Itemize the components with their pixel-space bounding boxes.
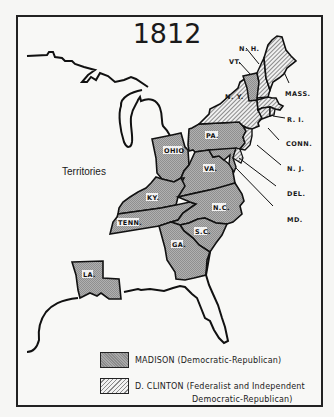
label-pa: PA. [206,132,219,140]
legend-madison-text: MADISON (Democratic-Republican) [135,356,281,365]
label-ga: GA. [172,241,186,249]
territories-label: Territories [62,166,106,177]
legend-item-clinton: D. CLINTON (Federalist and Independent D… [100,378,305,406]
label-nj: N. J. [287,165,305,173]
label-md: MD. [287,216,303,224]
label-ky: KY. [147,194,159,202]
clinton-swatch [100,378,129,394]
label-tenn: TENN. [118,219,142,227]
state-la [72,261,121,299]
label-sc: S.C. [195,228,211,236]
legend-item-madison: MADISON (Democratic-Republican) [100,352,281,368]
label-nc: N.C. [213,204,230,212]
label-va: VA. [204,165,217,173]
label-la: LA. [83,271,96,279]
label-mass: MASS. [285,90,311,98]
gulf-coast-outline [27,298,78,352]
label-ny: N. Y. [225,93,244,101]
legend-clinton-text: D. CLINTON (Federalist and Independent [135,382,305,391]
label-conn: CONN. [286,140,312,148]
label-ri: R. I. [287,116,304,124]
label-ohio: OHIO [164,147,185,155]
great-lakes-border [27,52,148,87]
state-ri [270,107,275,116]
legend-label-clinton: D. CLINTON (Federalist and Independent D… [135,380,305,406]
legend-label-madison: MADISON (Democratic-Republican) [135,354,281,367]
legend-clinton-text-line2: Democratic-Republican) [135,393,305,406]
label-vt: VT. [229,58,241,66]
label-nh: N. H. [239,45,260,53]
madison-swatch [100,352,129,368]
label-del: DEL. [287,190,305,198]
